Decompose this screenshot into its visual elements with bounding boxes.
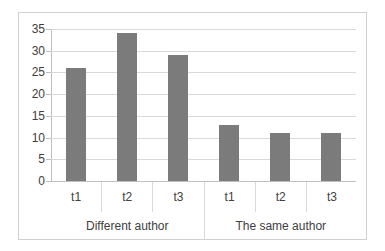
gridline-10 [51,138,356,139]
group-label: The same author [205,212,358,240]
category-label: t2 [256,182,307,212]
y-tick-mark-10 [46,138,51,139]
y-tick-mark-25 [46,72,51,73]
y-axis-label-10: 10 [32,132,45,144]
gridline-20 [51,94,356,95]
y-tick-mark-5 [46,159,51,160]
bar[interactable] [270,133,290,181]
group-separator [204,182,205,240]
category-label: t2 [102,182,153,212]
bar[interactable] [117,33,137,181]
y-axis-label-20: 20 [32,88,45,100]
y-axis-label-5: 5 [38,153,45,165]
y-axis-label-30: 30 [32,45,45,57]
y-axis-label-0: 0 [38,175,45,187]
category-label: t3 [307,182,357,212]
plot-area [51,29,356,181]
gridline-35 [51,29,356,30]
bar[interactable] [66,68,86,181]
group-label: Different author [51,212,205,240]
y-axis-label-15: 15 [32,110,45,122]
y-tick-mark-15 [46,116,51,117]
category-label: t3 [153,182,204,212]
category-label: t1 [205,182,256,212]
gridline-30 [51,51,356,52]
category-label: t1 [51,182,102,212]
chart-frame: 05101520253035 t1t2t3t1t2t3 Different au… [18,12,367,240]
gridline-5 [51,159,356,160]
bar[interactable] [219,125,239,181]
bar[interactable] [168,55,188,181]
gridline-25 [51,72,356,73]
bar[interactable] [321,133,341,181]
y-tick-mark-20 [46,94,51,95]
y-tick-mark-35 [46,29,51,30]
y-axis-label-35: 35 [32,23,45,35]
gridline-15 [51,116,356,117]
y-axis-label-25: 25 [32,66,45,78]
y-tick-mark-30 [46,51,51,52]
